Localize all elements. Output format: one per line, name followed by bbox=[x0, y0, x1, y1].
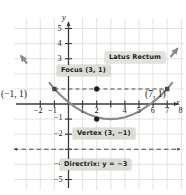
vertex-label: Vertex (3, −1) bbox=[73, 128, 135, 139]
x-tick-label-2: 2 bbox=[94, 107, 98, 115]
parabola-figure: y x −2 −1 1 2 4 5 6 7 8 5 4 3 2 −1 −2 −4… bbox=[0, 0, 186, 195]
x-tick-label-4: 4 bbox=[123, 107, 127, 115]
y-tick-label-neg2: −2 bbox=[54, 130, 63, 138]
x-tick-label-6: 6 bbox=[151, 107, 155, 115]
y-tick-label-4: 4 bbox=[58, 40, 62, 48]
x-tick-label-neg2: −2 bbox=[34, 107, 43, 115]
focus-point-marker bbox=[94, 86, 99, 91]
point-marker-left-endpoint bbox=[52, 87, 56, 91]
point-label-left-endpoint: (−1, 1) bbox=[1, 90, 27, 100]
y-tick-label-5: 5 bbox=[58, 25, 62, 33]
y-axis-label: y bbox=[62, 13, 66, 22]
vertex-point-marker bbox=[94, 117, 99, 122]
y-tick-label-neg5: −5 bbox=[54, 176, 63, 184]
x-tick-label-1: 1 bbox=[80, 107, 84, 115]
y-tick-label-neg1: −1 bbox=[54, 114, 63, 122]
point-label-right-endpoint: (7, 1) bbox=[145, 90, 166, 100]
latus-rectum-label: Latus Rectum bbox=[105, 52, 165, 63]
x-tick-label-5: 5 bbox=[137, 107, 141, 115]
directrix-label: Directrix: y = −3 bbox=[60, 159, 131, 170]
focus-label: Focus (3, 1) bbox=[57, 65, 110, 76]
y-tick-label-3: 3 bbox=[58, 55, 62, 63]
x-tick-label-7: 7 bbox=[165, 107, 169, 115]
x-tick-label-8: 8 bbox=[179, 107, 183, 115]
